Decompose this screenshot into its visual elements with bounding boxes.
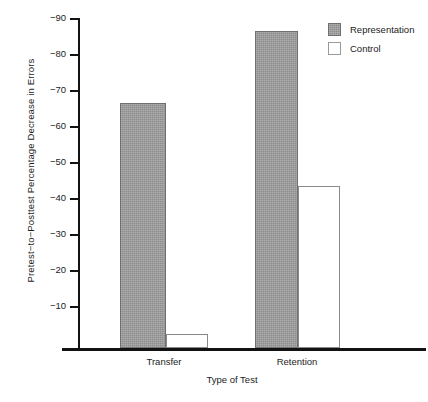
y-axis-tick [70,18,78,20]
bar-transfer-representation [120,103,166,348]
legend-swatch-empty-white-icon [328,42,341,55]
y-axis-tick [70,162,78,164]
y-axis-tick [70,126,78,128]
bar-transfer-control [166,334,208,348]
legend-item-representation: Representation [328,20,414,39]
y-axis-tick-label-container: −70 [28,84,66,96]
y-axis-tick-label-container: −60 [28,120,66,132]
y-axis-tick-label: −60 [32,120,66,131]
legend-label: Representation [350,24,414,35]
y-axis-tick-label: −70 [32,84,66,95]
y-axis-tick-label-container: −10 [28,300,66,312]
x-axis-label: Type of Test [0,374,428,385]
x-axis-tick-label-retention: Retention [253,356,341,367]
y-axis-tick-label-container: −50 [28,156,66,168]
legend: Representation Control [328,20,414,58]
y-axis-tick-label: −80 [32,48,66,59]
y-axis-tick-label-container: −30 [28,228,66,240]
y-axis-tick-label: −20 [32,264,66,275]
legend-label: Control [350,43,381,54]
y-axis-line [78,18,80,349]
x-axis-line [62,348,426,351]
y-axis-tick-label: −30 [32,228,66,239]
bar-retention-representation [255,31,298,348]
y-axis-tick [70,306,78,308]
y-axis-tick-label-container: −40 [28,192,66,204]
legend-item-control: Control [328,39,414,58]
y-axis-tick [70,198,78,200]
y-axis-tick [70,234,78,236]
y-axis-tick-label-container: −80 [28,48,66,60]
bar-retention-control [298,186,340,348]
y-axis-tick-label: −50 [32,156,66,167]
y-axis-tick [70,270,78,272]
y-axis-tick [70,54,78,56]
x-axis-tick-label-transfer: Transfer [120,356,208,367]
legend-swatch-filled-gray-icon [328,23,341,36]
y-axis-tick-label-container: −90 [28,12,66,24]
y-axis-tick-label: −90 [32,12,66,23]
chart-figure: Pretest−to−Posttest Percentage Decrease … [0,0,428,402]
y-axis-tick-label-container: −20 [28,264,66,276]
y-axis-tick-label: −10 [32,300,66,311]
y-axis-tick [70,90,78,92]
y-axis-tick-label: −40 [32,192,66,203]
